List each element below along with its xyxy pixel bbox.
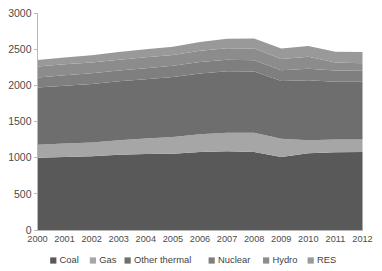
legend-swatch-icon (308, 257, 314, 263)
plot-area (38, 38, 363, 230)
area-series-coal (38, 151, 363, 230)
legend-swatch-icon (90, 257, 96, 263)
legend-label: Coal (60, 254, 79, 265)
legend: CoalGasOther thermalNuclearHydroRES (50, 254, 336, 265)
legend-item[interactable]: Hydro (263, 254, 297, 265)
x-tick-label: 2012 (352, 234, 372, 244)
legend-item[interactable]: RES (308, 254, 337, 265)
x-tick-label: 2011 (326, 234, 346, 244)
y-tick-label: 1000 (8, 151, 32, 163)
y-tick-label: 1500 (8, 115, 32, 127)
legend-swatch-icon (125, 257, 131, 263)
legend-swatch-icon (263, 257, 269, 263)
y-tick-label: 2500 (8, 43, 32, 55)
x-tick-label: 2000 (27, 234, 47, 244)
legend-label: Hydro (272, 254, 297, 265)
chart-canvas: 0500100015002000250030002000200120022003… (0, 0, 382, 271)
legend-label: Other thermal (134, 254, 191, 265)
y-tick-label: 500 (14, 188, 32, 200)
y-tick-label: 2000 (8, 79, 32, 91)
legend-label: RES (317, 254, 336, 265)
x-tick-label: 2007 (217, 234, 237, 244)
legend-item[interactable]: Gas (90, 254, 117, 265)
legend-item[interactable]: Nuclear (209, 254, 251, 265)
legend-item[interactable]: Other thermal (125, 254, 192, 265)
legend-swatch-icon (209, 257, 215, 263)
x-tick-label: 2009 (271, 234, 291, 244)
x-tick-label: 2002 (81, 234, 101, 244)
legend-label: Gas (99, 254, 117, 265)
y-tick-label: 3000 (8, 7, 32, 19)
x-tick-label: 2010 (298, 234, 318, 244)
legend-item[interactable]: Coal (50, 254, 79, 265)
legend-swatch-icon (50, 257, 56, 263)
legend-label: Nuclear (218, 254, 250, 265)
x-tick-label: 2001 (54, 234, 74, 244)
x-tick-label: 2004 (136, 234, 156, 244)
x-tick-label: 2006 (190, 234, 210, 244)
x-tick-label: 2005 (163, 234, 183, 244)
x-tick-label: 2008 (244, 234, 264, 244)
stacked-area-chart: 0500100015002000250030002000200120022003… (0, 0, 382, 271)
x-tick-label: 2003 (109, 234, 129, 244)
